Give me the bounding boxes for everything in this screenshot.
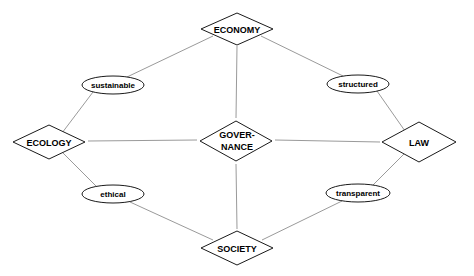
edge-sustainable-economy xyxy=(127,36,213,77)
node-governance-label-line1: GOVER- xyxy=(219,130,255,140)
node-ecology: ECOLOGY xyxy=(13,125,85,159)
edge-label-structured-text: structured xyxy=(338,80,378,89)
edge-economy-governance xyxy=(236,46,237,118)
edge-label-structured: structured xyxy=(327,75,389,93)
node-economy-label: ECONOMY xyxy=(214,25,261,35)
edge-label-ethical: ethical xyxy=(82,185,144,203)
node-governance: GOVER- NANCE xyxy=(200,121,272,161)
edge-label-transparent-text: transparent xyxy=(336,189,380,198)
node-ecology-label: ECOLOGY xyxy=(26,138,71,148)
edge-transparent-law xyxy=(373,153,405,185)
edge-governance-society xyxy=(236,164,237,229)
edge-ecology-sustainable xyxy=(62,92,93,133)
edge-economy-structured xyxy=(261,36,343,76)
edge-label-ethical-text: ethical xyxy=(100,190,125,199)
node-law: LAW xyxy=(382,122,456,162)
node-society: SOCIETY xyxy=(201,231,273,265)
edge-ecology-ethical xyxy=(62,152,97,187)
edge-label-sustainable-text: sustainable xyxy=(91,81,136,90)
node-economy: ECONOMY xyxy=(201,13,273,45)
node-society-label: SOCIETY xyxy=(217,244,257,254)
edge-society-transparent xyxy=(262,201,342,240)
edge-structured-law xyxy=(377,91,405,131)
diagram-canvas: ECONOMY ECOLOGY GOVER- NANCE LAW SOCIETY… xyxy=(0,0,474,276)
edge-ethical-society xyxy=(130,202,213,240)
node-law-label: LAW xyxy=(409,138,430,148)
edge-ecology-governance xyxy=(88,140,197,141)
diamond-shape xyxy=(200,121,272,161)
edge-label-sustainable: sustainable xyxy=(82,76,144,94)
node-governance-label-line2: NANCE xyxy=(221,142,253,152)
edge-label-transparent: transparent xyxy=(326,184,390,202)
edge-governance-law xyxy=(275,140,380,142)
